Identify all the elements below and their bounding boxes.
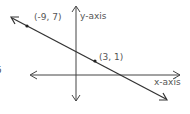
clipped-edge-glyph: 5 xyxy=(0,66,2,75)
point-marker-neg9-7 xyxy=(25,24,28,27)
coordinate-plane-figure: (-9, 7) (3, 1) y-axis x-axis 5 xyxy=(0,0,190,114)
point-label-3-1: (3, 1) xyxy=(99,53,123,62)
y-axis-label: y-axis xyxy=(80,12,106,21)
x-axis-label: x-axis xyxy=(154,78,181,87)
point-marker-3-1 xyxy=(93,59,96,62)
graphed-line xyxy=(11,17,167,100)
point-label-neg9-7: (-9, 7) xyxy=(34,13,61,22)
